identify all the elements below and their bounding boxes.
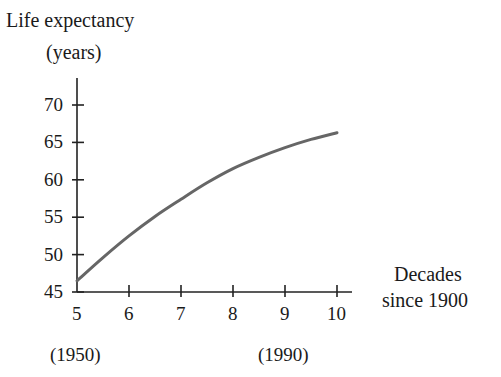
x-tick-label: 7: [176, 304, 186, 323]
y-tick-label: 65: [44, 132, 63, 151]
axes: [72, 78, 352, 297]
y-axis-title-line1: Life expectancy: [6, 10, 134, 30]
x-tick-label: 6: [124, 304, 134, 323]
x-tick-label: 8: [228, 304, 238, 323]
x-axis-title-line2: since 1900: [382, 290, 468, 310]
x-axis-title-line1: Decades: [394, 264, 462, 284]
y-tick-label: 70: [44, 95, 63, 114]
annotation-1950: (1950): [50, 345, 101, 364]
y-tick-label: 45: [44, 282, 63, 301]
x-tick-label: 10: [327, 304, 346, 323]
annotation-1990: (1990): [258, 345, 309, 364]
x-tick-label: 5: [72, 304, 82, 323]
y-axis-title-line2: (years): [46, 42, 102, 62]
y-tick-label: 55: [44, 207, 63, 226]
life-expectancy-curve: [77, 133, 337, 281]
x-tick-label: 9: [280, 304, 290, 323]
y-tick-label: 50: [44, 245, 63, 264]
y-tick-label: 60: [44, 170, 63, 189]
